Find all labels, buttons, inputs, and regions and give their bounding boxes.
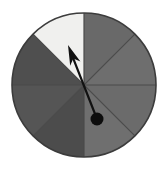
- spinner-figure: [0, 0, 168, 169]
- spinner-svg: [0, 0, 168, 169]
- pivot-dot[interactable]: [91, 113, 104, 126]
